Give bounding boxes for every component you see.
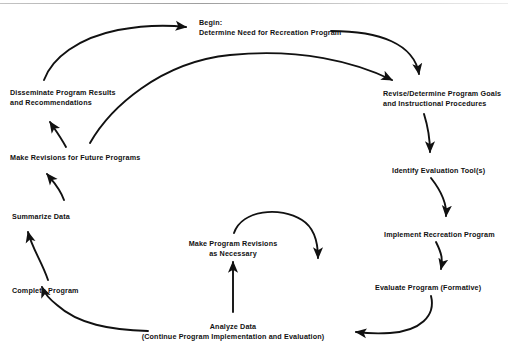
node-make-revisions-necessary-line-1: Make Program Revisions — [153, 239, 313, 249]
edge-summarize-to-makerevisionsfuture — [47, 174, 64, 200]
node-analyze-line-1: Analyze Data — [0, 322, 466, 332]
node-begin-line-1: Begin: — [199, 18, 341, 28]
node-disseminate-line-1: Disseminate Program Results — [10, 88, 116, 98]
node-begin-line-2: Determine Need for Recreation Program — [199, 28, 341, 38]
node-evaluate-line-1: Evaluate Program (Formative) — [375, 283, 481, 293]
node-make-program-revisions-as-necessary: Make Program Revisions as Necessary — [153, 239, 313, 258]
node-begin-determine-need: Begin: Determine Need for Recreation Pro… — [199, 18, 341, 37]
node-make-revisions-for-future-programs: Make Revisions for Future Programs — [10, 153, 140, 163]
node-summarize-data: Summarize Data — [12, 212, 70, 222]
node-complete-program: Complete Program — [12, 286, 79, 296]
edge-implement-to-evaluate — [436, 242, 442, 269]
edge-revisegoals-to-identifytools — [424, 114, 430, 152]
node-evaluate-program-formative: Evaluate Program (Formative) — [375, 283, 481, 293]
node-revise-goals-line-2: and Instructional Procedures — [383, 99, 501, 109]
edge-identifytools-to-implement — [431, 178, 446, 216]
node-complete-program-line-1: Complete Program — [12, 286, 79, 296]
node-implement-line-1: Implement Recreation Program — [384, 230, 495, 240]
edge-begin-to-revisegoals — [331, 31, 419, 74]
node-make-revisions-future-line-1: Make Revisions for Future Programs — [10, 153, 140, 163]
node-summarize-data-line-1: Summarize Data — [12, 212, 70, 222]
edge-completeprogram-to-summarize — [28, 232, 48, 280]
flowchart-diagram: Begin: Determine Need for Recreation Pro… — [0, 0, 508, 353]
edge-disseminate-to-begin — [44, 26, 186, 80]
node-analyze-line-2: (Continue Program Implementation and Eva… — [0, 332, 466, 342]
edge-makerevisionsfuture-to-disseminate — [50, 122, 66, 147]
node-disseminate-line-2: and Recommendations — [10, 98, 116, 108]
arrow-layer — [0, 0, 508, 353]
node-implement-recreation-program: Implement Recreation Program — [384, 230, 495, 240]
node-make-revisions-necessary-line-2: as Necessary — [153, 249, 313, 259]
node-disseminate-program-results: Disseminate Program Results and Recommen… — [10, 88, 116, 107]
edge-makerevisionsfuture-to-revisegoals — [90, 53, 392, 143]
node-identify-tools-line-1: Identify Evaluation Tool(s) — [392, 166, 485, 176]
node-analyze-data: Analyze Data (Continue Program Implement… — [0, 322, 466, 341]
node-identify-evaluation-tools: Identify Evaluation Tool(s) — [392, 166, 485, 176]
node-revise-goals-line-1: Revise/Determine Program Goals — [383, 89, 501, 99]
node-revise-determine-program-goals: Revise/Determine Program Goals and Instr… — [383, 89, 501, 108]
